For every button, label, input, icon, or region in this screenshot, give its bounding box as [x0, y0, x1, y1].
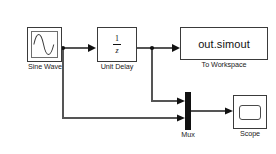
scope-label: Scope: [225, 130, 275, 138]
arrow-scope-input: [225, 108, 233, 115]
fraction-bar-icon: [113, 44, 121, 45]
arrow-toworkspace-input: [172, 44, 180, 52]
sine-wave-label: Sine Wave: [5, 63, 85, 71]
unitdelay-output-junction: [150, 46, 154, 50]
mux-block[interactable]: [185, 92, 191, 130]
unit-delay-block[interactable]: 1 z: [97, 27, 137, 62]
wire-unitdelay-branch-to-mux: [152, 48, 181, 101]
sine-wave-block[interactable]: [27, 27, 62, 62]
scope-screen-icon: [239, 105, 261, 120]
arrow-mux-input-2: [177, 115, 185, 122]
to-workspace-label: To Workspace: [180, 61, 268, 69]
arrow-unitdelay-input: [88, 44, 96, 52]
scope-block[interactable]: [233, 95, 267, 129]
to-workspace-variable-name: out.simout: [198, 38, 250, 50]
sine-wave-icon: [31, 31, 58, 58]
arrow-mux-input-1: [177, 98, 185, 105]
unit-delay-transfer-function: 1 z: [113, 35, 121, 55]
mux-label: Mux: [168, 131, 208, 139]
to-workspace-block[interactable]: out.simout: [180, 27, 268, 60]
block-diagram-canvas[interactable]: Sine Wave 1 z Unit Delay out.simout To W…: [0, 0, 276, 154]
unit-delay-denominator: z: [115, 46, 118, 55]
unit-delay-label: Unit Delay: [85, 63, 149, 71]
unit-delay-numerator: 1: [115, 35, 119, 44]
